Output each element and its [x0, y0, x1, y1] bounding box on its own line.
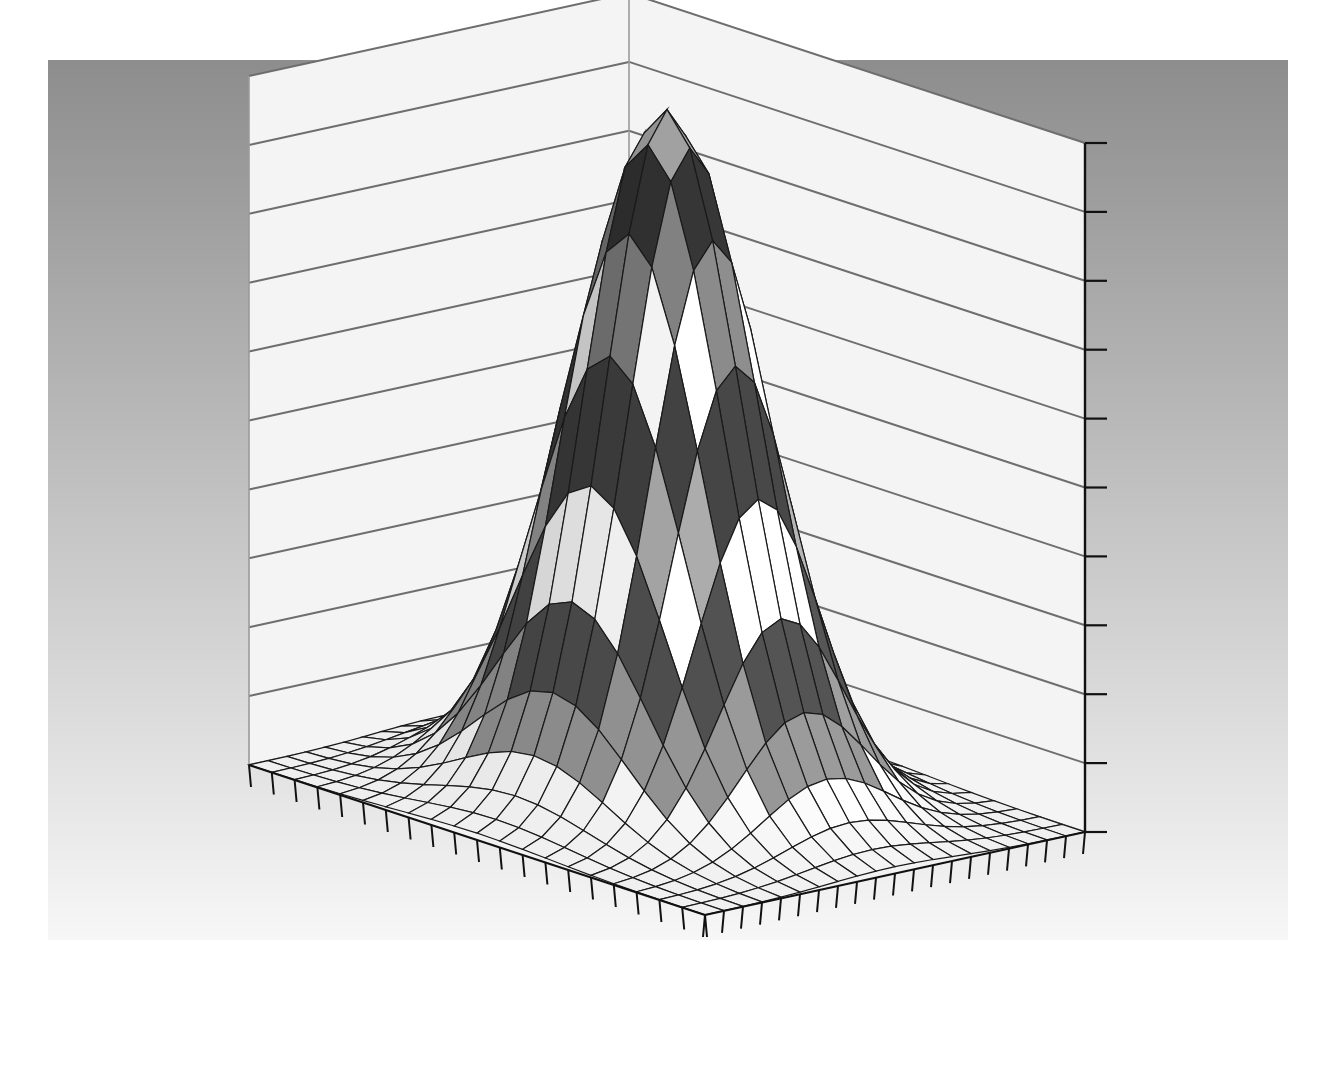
figure-container: Single smooth central peak rising from a… [0, 0, 1324, 1072]
surface-plot-canvas[interactable] [0, 0, 1324, 1072]
